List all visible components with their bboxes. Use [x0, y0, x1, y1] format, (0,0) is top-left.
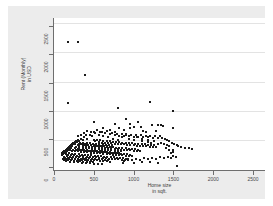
data-point: [81, 162, 83, 164]
data-point: [84, 74, 86, 76]
data-point: [93, 163, 95, 165]
data-point: [85, 162, 87, 164]
graph-region: 05001000150020002500 0500100015002000250…: [8, 6, 265, 199]
data-point: [149, 101, 151, 103]
x-axis-tick: [94, 171, 95, 175]
data-point: [137, 121, 139, 123]
data-point: [77, 41, 79, 43]
y-axis-tick-label: 2000: [43, 54, 49, 80]
data-point: [86, 130, 88, 132]
data-point: [67, 41, 69, 43]
data-point: [165, 147, 167, 149]
y-axis-title-line2: in USD: [26, 44, 32, 104]
data-point: [159, 156, 161, 158]
data-point: [180, 146, 182, 148]
x-axis-tick: [134, 171, 135, 175]
data-point: [69, 161, 71, 163]
data-point: [141, 140, 143, 142]
y-axis-line: [53, 18, 54, 171]
y-axis-tick: [49, 83, 53, 84]
data-point: [90, 150, 92, 152]
data-point: [93, 150, 95, 152]
data-point: [83, 149, 85, 151]
data-point: [176, 165, 178, 167]
y-axis-tick-label: 500: [43, 139, 49, 165]
data-point: [136, 136, 138, 138]
y-axis-title: Rent (Monthly) in USD: [20, 44, 32, 104]
data-point: [93, 121, 95, 123]
data-point: [172, 127, 174, 129]
data-point: [117, 139, 119, 141]
data-point: [102, 135, 104, 137]
data-point: [133, 139, 135, 141]
data-point: [106, 130, 108, 132]
data-point: [157, 162, 159, 164]
y-axis-tick-label: 1000: [43, 111, 49, 137]
data-point: [155, 146, 157, 148]
data-point: [112, 138, 114, 140]
data-point: [99, 150, 101, 152]
data-point: [129, 127, 131, 129]
data-point: [131, 155, 133, 157]
data-point: [102, 151, 104, 153]
data-point: [125, 118, 127, 120]
data-point: [112, 152, 114, 154]
data-point: [96, 129, 98, 131]
data-point: [175, 156, 177, 158]
y-axis-tick-label: 1500: [43, 83, 49, 109]
data-point: [172, 110, 174, 112]
data-point: [118, 152, 120, 154]
data-point: [135, 158, 137, 160]
data-point: [120, 150, 122, 152]
data-point: [157, 143, 159, 145]
data-point: [86, 149, 88, 151]
data-point: [97, 163, 99, 165]
y-axis-tick: [49, 111, 53, 112]
y-axis-tick: [49, 167, 53, 168]
data-point: [65, 160, 67, 162]
data-point: [117, 107, 119, 109]
data-point: [149, 161, 151, 163]
data-point: [125, 134, 127, 136]
data-point: [98, 134, 100, 136]
data-point: [162, 125, 164, 127]
data-point: [122, 162, 124, 164]
x-axis-title-line2: in sqft.: [54, 188, 265, 194]
data-point: [96, 150, 98, 152]
data-point: [90, 131, 92, 133]
data-point: [93, 131, 95, 133]
data-point: [80, 134, 82, 136]
data-point: [73, 161, 75, 163]
x-axis-tick: [54, 171, 55, 175]
data-point: [109, 161, 111, 163]
data-point: [168, 145, 170, 147]
data-point: [123, 129, 125, 131]
data-point: [109, 129, 111, 131]
data-point: [83, 132, 85, 134]
data-point: [140, 126, 142, 128]
plot-area: [54, 18, 265, 170]
data-point: [150, 142, 152, 144]
data-point: [127, 159, 129, 161]
data-point: [191, 148, 193, 150]
data-point: [121, 136, 123, 138]
data-point: [142, 130, 144, 132]
gridline: [54, 111, 265, 112]
x-axis-tick: [173, 171, 174, 175]
data-point: [163, 143, 165, 145]
data-point: [151, 124, 153, 126]
data-point: [111, 144, 113, 146]
y-axis-tick-label: 2500: [43, 26, 49, 52]
data-point: [145, 131, 147, 133]
y-axis-tick: [49, 26, 53, 27]
data-point: [77, 135, 79, 137]
data-point: [118, 127, 120, 129]
data-point: [101, 163, 103, 165]
data-point: [91, 135, 93, 137]
data-point: [141, 161, 143, 163]
data-point: [160, 142, 162, 144]
gridline: [54, 23, 265, 24]
data-point: [155, 158, 157, 160]
data-point: [89, 134, 91, 136]
data-point: [107, 136, 109, 138]
